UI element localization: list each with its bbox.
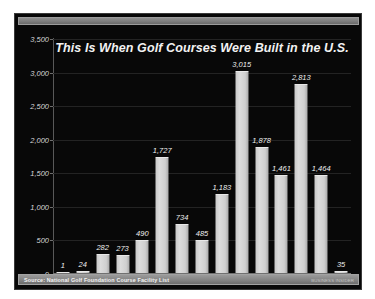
bar-slot: 485 [192,38,212,273]
bar-slot: 1,461 [272,38,292,273]
bar-value-label: 1,183 [212,183,231,192]
y-axis-tick-label: 3,500 [21,35,49,44]
bar-value-label: 282 [96,243,109,252]
chart-figure: This Is When Golf Courses Were Built in … [14,13,362,290]
footer-strip: Source: National Golf Foundation Course … [18,274,359,285]
bar-series: 1242822734901,7277344851,1833,0151,8781,… [53,38,351,273]
bar-slot: 282 [93,38,113,273]
bar[interactable] [255,147,268,273]
bar-slot: 734 [172,38,192,273]
bar[interactable] [335,271,348,273]
bar-value-label: 1,727 [153,146,172,155]
plot-area: 1242822734901,7277344851,1833,0151,8781,… [53,38,351,274]
bar[interactable] [195,240,208,273]
y-axis-tick-label: 2,500 [21,102,49,111]
bar-value-label: 2,813 [292,73,311,82]
footer-credit-text: BUSINESS INSIDER [311,278,354,283]
bar-value-label: 734 [176,213,189,222]
bar[interactable] [315,175,328,273]
bar-slot: 24 [73,38,93,273]
bar[interactable] [176,224,189,273]
header-strip [18,17,359,25]
bar[interactable] [215,194,228,273]
bar-slot: 1,727 [152,38,172,273]
bar[interactable] [136,240,149,273]
bar-slot: 1 [53,38,73,273]
y-axis-tick-label: 3,000 [21,69,49,78]
y-axis-tick-label: 1,500 [21,169,49,178]
bar-slot: 1,183 [212,38,232,273]
bar-slot: 273 [113,38,133,273]
y-axis-tick-label: 500 [21,236,49,245]
bar[interactable] [275,175,288,273]
bar-slot: 2,813 [291,38,311,273]
bar[interactable] [76,271,89,273]
bar-value-label: 485 [196,229,209,238]
bar[interactable] [235,71,248,273]
bar-value-label: 1 [61,261,65,270]
bar-value-label: 35 [337,260,345,269]
bar-value-label: 24 [79,260,87,269]
bar[interactable] [116,255,129,273]
bar[interactable] [295,84,308,273]
y-axis-tick-label: 2,000 [21,136,49,145]
bar-value-label: 1,461 [272,164,291,173]
bar-value-label: 3,015 [232,60,251,69]
bar-slot: 3,015 [232,38,252,273]
bar-value-label: 490 [136,229,149,238]
bar-slot: 1,464 [311,38,331,273]
bar[interactable] [96,254,109,273]
bar-slot: 1,878 [252,38,272,273]
bar-slot: 35 [331,38,351,273]
bar-slot: 490 [132,38,152,273]
bar[interactable] [156,157,169,273]
bar-value-label: 1,464 [312,164,331,173]
bar-value-label: 273 [116,244,129,253]
chart-page: This Is When Golf Courses Were Built in … [0,0,375,299]
footer-source-text: Source: National Golf Foundation Course … [24,277,169,283]
bar-value-label: 1,878 [252,136,271,145]
y-axis-tick-label: 1,000 [21,203,49,212]
bar[interactable] [56,272,69,274]
